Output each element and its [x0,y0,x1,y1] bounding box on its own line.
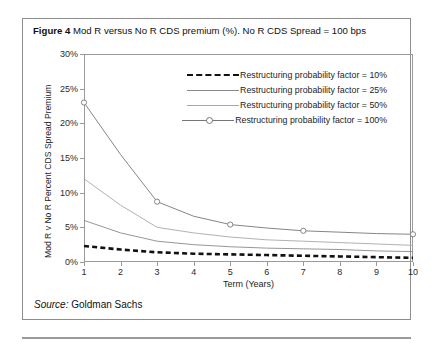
legend-label: Restructuring probability factor = 50% [239,100,387,110]
legend-swatch [187,84,239,95]
x-tick-mark [413,262,414,266]
legend-item: Restructuring probability factor = 100% [137,112,387,127]
y-tick-label: 20% [44,118,78,128]
figure-label: Figure 4 [33,25,70,36]
x-tick-mark [121,262,122,266]
x-tick-mark [194,262,195,266]
series-marker [155,199,160,204]
chart-legend: Restructuring probability factor = 10%Re… [137,67,387,127]
figure-caption: Figure 4 Mod R versus No R CDS premium (… [33,25,405,37]
y-tick-label: 0% [44,257,78,267]
x-tick-label: 2 [118,267,123,277]
legend-swatch [182,114,234,125]
legend-line [187,74,239,76]
source-label: Source: [34,299,68,310]
series-marker [410,232,415,237]
x-tick-label: 8 [337,267,342,277]
x-tick-label: 10 [408,267,418,277]
legend-label: Restructuring probability factor = 25% [239,85,387,95]
chart-area: Mod R v No R Percent CDS Spread Premium … [33,43,405,305]
source-line: Source: Goldman Sachs [34,299,142,310]
series-marker [301,228,306,233]
y-tick-label: 5% [44,222,78,232]
legend-label: Restructuring probability factor = 10% [239,70,387,80]
legend-swatch [187,99,239,110]
y-tick-label: 10% [44,188,78,198]
y-tick-label: 30% [44,49,78,59]
x-tick-mark [376,262,377,266]
legend-swatch [187,69,239,80]
legend-marker-circle-icon [206,117,213,124]
legend-line [187,105,239,106]
x-tick-mark [267,262,268,266]
x-axis-title: Term (Years) [84,279,413,289]
series-line [84,220,413,251]
x-tick-label: 7 [301,267,306,277]
x-tick-mark [303,262,304,266]
x-tick-mark [230,262,231,266]
legend-label: Restructuring probability factor = 100% [234,115,387,125]
y-tick-label: 25% [44,84,78,94]
legend-item: Restructuring probability factor = 25% [137,82,387,97]
x-tick-label: 6 [264,267,269,277]
figure-container: Figure 4 Mod R versus No R CDS premium (… [22,18,411,320]
legend-item: Restructuring probability factor = 50% [137,97,387,112]
source-value: Goldman Sachs [71,299,142,310]
y-tick-label: 15% [44,153,78,163]
legend-line [187,90,239,91]
x-tick-mark [84,262,85,266]
x-tick-label: 4 [191,267,196,277]
legend-item: Restructuring probability factor = 10% [137,67,387,82]
x-tick-label: 5 [228,267,233,277]
bottom-divider [22,337,411,339]
series-marker [81,100,86,105]
figure-caption-text: Mod R versus No R CDS premium (%). No R … [73,25,366,36]
x-tick-label: 9 [374,267,379,277]
x-tick-label: 3 [155,267,160,277]
x-tick-mark [157,262,158,266]
x-tick-mark [340,262,341,266]
x-tick-label: 1 [81,267,86,277]
series-marker [228,222,233,227]
